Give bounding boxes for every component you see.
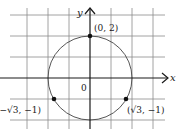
point-right [124,97,129,102]
origin-label: 0 [81,83,87,93]
point-right-label: (√3, −1) [127,105,164,115]
y-axis-label: y [76,7,83,18]
point-left-label: (−√3, −1) [0,105,41,115]
point-top-label: (0, 2) [94,23,118,33]
point-top [88,34,93,39]
coordinate-plane-figure: x y 0 (0, 2) (√3, −1) (−√3, −1) [0,0,177,129]
x-axis [0,73,168,83]
point-left [52,97,57,102]
x-axis-label: x [170,72,176,83]
